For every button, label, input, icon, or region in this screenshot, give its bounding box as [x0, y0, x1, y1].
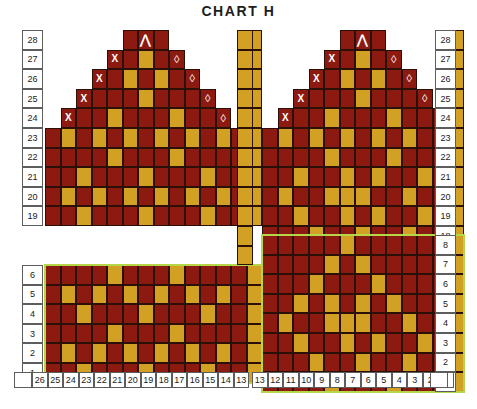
- chart-cell: [278, 187, 294, 207]
- chart-cell: [402, 187, 418, 207]
- chart-cell: [340, 50, 356, 70]
- chart-cell: [293, 255, 309, 275]
- row-label-right-19: 19: [435, 206, 456, 226]
- chart-cell: [324, 69, 340, 89]
- chart-cell: [123, 187, 139, 207]
- chart-cell: [386, 274, 402, 294]
- chart-cell: [340, 108, 356, 128]
- chart-cell: [278, 206, 294, 226]
- chart-cell: [340, 235, 356, 255]
- chart-cell: [402, 294, 418, 314]
- chart-cell: [92, 343, 108, 363]
- row-label-right-8: 8: [435, 235, 456, 255]
- chart-cell: [107, 89, 123, 109]
- row-label-left-4: 4: [22, 304, 43, 324]
- col-label-11: 11: [283, 372, 299, 388]
- chart-cell: [371, 333, 387, 353]
- row-label-right-22: 22: [435, 148, 456, 168]
- chart-cell: [386, 353, 402, 373]
- chart-cell: [45, 187, 61, 207]
- chart-cell: [92, 285, 108, 305]
- chart-cell: [309, 313, 325, 333]
- chart-cell: [340, 128, 356, 148]
- chart-cell: [355, 108, 371, 128]
- chart-cell: [402, 313, 418, 333]
- chart-cell: [262, 353, 278, 373]
- chart-cell: [237, 108, 253, 128]
- col-label-22: 22: [94, 372, 110, 388]
- chart-cell: [309, 187, 325, 207]
- chart-cell: [216, 128, 232, 148]
- chart-cell: [216, 148, 232, 168]
- chart-cell: [92, 108, 108, 128]
- chart-cell: [216, 285, 232, 305]
- chart-cell: [402, 148, 418, 168]
- chart-cell: [293, 353, 309, 373]
- chart-cell: [386, 108, 402, 128]
- chart-cell: [371, 69, 387, 89]
- row-label-left-2: 2: [22, 343, 43, 363]
- chart-cell: [355, 274, 371, 294]
- row-label-left-19: 19: [22, 206, 43, 226]
- chart-cell: [61, 285, 77, 305]
- chart-cell: [309, 206, 325, 226]
- col-label-23: 23: [79, 372, 95, 388]
- chart-cell: [371, 148, 387, 168]
- chart-cell: [185, 167, 201, 187]
- chart-cell: [309, 333, 325, 353]
- chart-cell: [169, 304, 185, 324]
- chart-cell: [76, 285, 92, 305]
- chart-cell: [262, 148, 278, 168]
- chart-cell: [138, 148, 154, 168]
- chart-cell: [355, 235, 371, 255]
- chart-cell: [278, 235, 294, 255]
- chart-cell: [371, 206, 387, 226]
- chart-cell: [123, 148, 139, 168]
- chart-cell: [340, 313, 356, 333]
- chart-cell: [278, 274, 294, 294]
- chart-cell: [309, 69, 325, 89]
- chart-cell: [61, 324, 77, 344]
- chart-cell: [237, 69, 253, 89]
- chart-cell: [138, 343, 154, 363]
- col-label-24: 24: [63, 372, 79, 388]
- chart-cell: [324, 148, 340, 168]
- chart-cell: [293, 89, 309, 109]
- col-label-18: 18: [156, 372, 172, 388]
- chart-cell: [45, 343, 61, 363]
- chart-cell: [169, 50, 185, 70]
- chart-cell: [107, 148, 123, 168]
- chart-cell: [61, 206, 77, 226]
- col-label-10: 10: [299, 372, 315, 388]
- chart-cell: [61, 128, 77, 148]
- chart-cell: [402, 108, 418, 128]
- chart-cell: [200, 108, 216, 128]
- col-label-14: 14: [218, 372, 234, 388]
- chart-cell: [200, 167, 216, 187]
- chart-cell: [293, 148, 309, 168]
- chart-cell: [309, 274, 325, 294]
- chart-cell: [138, 324, 154, 344]
- chart-cell: [76, 89, 92, 109]
- chart-cell: [237, 50, 253, 70]
- col-label-16: 16: [187, 372, 203, 388]
- chart-cell: [200, 89, 216, 109]
- chart-cell: [61, 187, 77, 207]
- chart-cell: [309, 148, 325, 168]
- chart-cell: [169, 167, 185, 187]
- chart-cell: [169, 69, 185, 89]
- chart-cell: [138, 285, 154, 305]
- chart-cell: [231, 304, 247, 324]
- col-label-13: 13: [252, 372, 268, 388]
- chart-cell: [324, 235, 340, 255]
- chart-cell: [61, 304, 77, 324]
- chart-cell: [123, 108, 139, 128]
- chart-cell: [237, 167, 253, 187]
- chart-cell: [402, 167, 418, 187]
- chart-cell: [169, 343, 185, 363]
- chart-cell: [417, 108, 433, 128]
- chart-cell: [237, 206, 253, 226]
- chart-cell: [237, 128, 253, 148]
- chart-cell: [185, 285, 201, 305]
- col-label-4: 4: [392, 372, 408, 388]
